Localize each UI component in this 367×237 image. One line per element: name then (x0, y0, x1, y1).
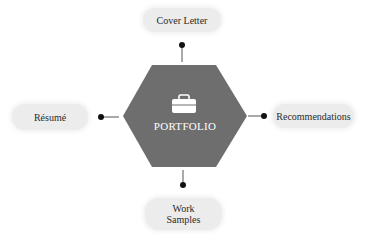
node-work-samples-label-line2: Samples (167, 214, 201, 225)
node-work-samples: Work Samples (145, 198, 222, 230)
portfolio-hexagon (123, 65, 247, 167)
node-resume-label: Résumé (34, 112, 66, 123)
node-recommendations: Recommendations (273, 104, 354, 128)
node-cover-letter-label: Cover Letter (157, 15, 208, 26)
node-cover-letter: Cover Letter (143, 8, 221, 32)
connector-bottom (180, 170, 186, 188)
connector-top (179, 42, 185, 62)
node-recommendations-label: Recommendations (276, 111, 350, 122)
portfolio-label: PORTFOLIO (123, 120, 247, 132)
node-work-samples-label-line1: Work (173, 203, 195, 214)
connector-right (248, 113, 267, 119)
node-resume: Résumé (12, 104, 88, 130)
connector-left (98, 114, 119, 120)
portfolio-diagram: PORTFOLIO Cover Letter Résumé Recommenda… (0, 0, 367, 237)
